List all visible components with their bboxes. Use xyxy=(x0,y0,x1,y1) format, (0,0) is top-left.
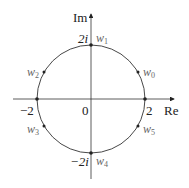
point-w1 xyxy=(89,43,93,47)
point-w2 xyxy=(43,71,46,74)
point-w5 xyxy=(137,125,140,128)
point-w0 xyxy=(137,71,140,74)
tick-neg-2: −2 xyxy=(20,103,34,118)
origin-label: 0 xyxy=(82,103,89,118)
tick-2i: 2i xyxy=(78,31,89,46)
point-w4 xyxy=(89,151,93,155)
x-axis-label: Re xyxy=(164,103,179,118)
point-2 xyxy=(143,97,147,101)
label-w3: w3 xyxy=(27,122,39,137)
complex-plane-diagram: Im Re −2 2 0 2i −2i w1 w0 w2 w3 w5 w4 xyxy=(0,0,189,188)
label-w1: w1 xyxy=(96,31,108,46)
label-w0: w0 xyxy=(143,65,155,80)
point-w3 xyxy=(43,125,46,128)
point-neg2 xyxy=(35,97,39,101)
tick-neg-2i: −2i xyxy=(70,154,89,169)
y-axis-label: Im xyxy=(73,10,87,25)
label-w4: w4 xyxy=(96,154,108,169)
label-w5: w5 xyxy=(143,122,155,137)
tick-pos-2: 2 xyxy=(146,103,153,118)
label-w2: w2 xyxy=(27,65,39,80)
